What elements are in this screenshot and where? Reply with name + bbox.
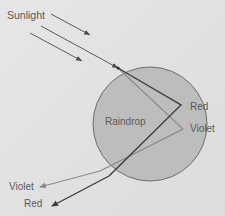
sunlight-arrow-2	[30, 33, 82, 61]
violet-exit-arrow	[40, 171, 100, 187]
red-exit-arrow	[52, 176, 109, 206]
label-red-reflection: Red	[190, 102, 208, 112]
label-violet-exit: Violet	[9, 182, 34, 192]
sunlight-main-ray	[41, 26, 118, 68]
sunlight-arrow-1	[51, 14, 90, 35]
raindrop-dispersion-diagram: Sunlight Raindrop Red Violet Violet Red	[0, 0, 225, 216]
label-red-exit: Red	[24, 199, 42, 209]
entry-point	[116, 66, 119, 69]
label-raindrop: Raindrop	[105, 117, 146, 127]
label-sunlight: Sunlight	[7, 10, 45, 21]
label-violet-reflection: Violet	[190, 124, 215, 134]
